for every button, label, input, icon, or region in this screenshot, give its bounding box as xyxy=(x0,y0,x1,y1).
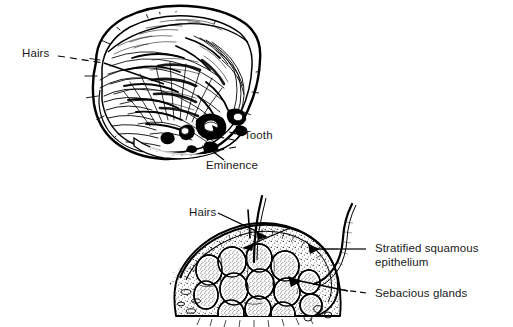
label-eminence: Eminence xyxy=(206,159,258,173)
arrowhead-eminence xyxy=(202,145,212,154)
label-bottom-hairs: Hairs xyxy=(189,206,216,220)
leader-line-top-hairs xyxy=(58,56,104,63)
sebaceous-gland-lobules xyxy=(194,244,322,326)
arrowhead-bottom-hairs xyxy=(256,231,268,240)
label-top-hairs: Hairs xyxy=(22,47,49,61)
leader-line-tooth xyxy=(222,130,236,134)
label-sebaceous-glands: Sebacious glands xyxy=(375,287,467,301)
arrowhead-tooth xyxy=(212,125,224,133)
mound-tissue xyxy=(174,223,340,316)
label-epithelium-line2: epithelium xyxy=(375,256,428,270)
arrowhead-epithelium xyxy=(308,244,320,254)
leader-line-top-hairs-solid xyxy=(104,63,164,84)
leader-line-eminence-dash xyxy=(214,147,236,151)
hair-shaft-right xyxy=(314,204,352,284)
label-epithelium-line1: Stratified squamous xyxy=(375,242,479,256)
arrowhead-sebaceous xyxy=(288,276,302,287)
epithelium-outer-line xyxy=(180,225,325,278)
label-tooth: Tooth xyxy=(244,129,273,143)
leader-line-sebaceous-dash xyxy=(344,290,366,293)
epithelium-inner-line xyxy=(186,231,320,280)
anatomical-figure-page: Hairs Tooth Eminence Hairs Stratified sq… xyxy=(0,0,513,327)
cyst-gross-drawing xyxy=(58,0,270,170)
leader-line-bottom-hairs xyxy=(218,213,258,232)
hair-shaft-central xyxy=(254,196,262,262)
